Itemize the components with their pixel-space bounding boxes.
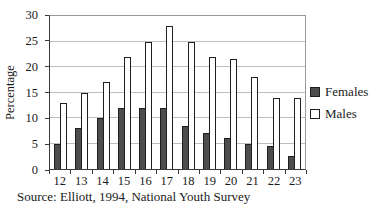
x-tick-mark-8 xyxy=(220,170,221,174)
bar-group-23 xyxy=(284,16,305,169)
y-tick-label-20: 20 xyxy=(26,60,39,73)
x-tick-mark-11 xyxy=(285,170,286,174)
plot-area xyxy=(49,15,306,170)
x-tick-mark-9 xyxy=(242,170,243,174)
source-note: Source: Elliott, 1994, National Youth Su… xyxy=(17,189,250,205)
legend-label-males: Males xyxy=(325,106,357,122)
bar-males-16 xyxy=(145,42,152,170)
bar-group-21 xyxy=(241,16,262,169)
bar-group-22 xyxy=(263,16,284,169)
y-tick-label-5: 5 xyxy=(32,138,38,151)
legend-item-males: Males xyxy=(310,106,368,122)
y-tick-label-0: 0 xyxy=(32,164,38,177)
x-tick-mark-4 xyxy=(135,170,136,174)
x-tick-label-14: 14 xyxy=(92,175,113,189)
bar-males-22 xyxy=(273,98,280,169)
bar-males-23 xyxy=(294,98,301,169)
bar-males-14 xyxy=(103,82,110,169)
y-tick-label-15: 15 xyxy=(26,86,39,99)
bar-group-14 xyxy=(93,16,114,169)
y-tick-label-30: 30 xyxy=(26,9,39,22)
bar-males-12 xyxy=(60,103,67,169)
x-tick-mark-12 xyxy=(306,170,307,174)
bar-males-19 xyxy=(209,57,216,169)
legend: FemalesMales xyxy=(310,84,368,128)
x-tick-label-21: 21 xyxy=(242,175,263,189)
bar-males-13 xyxy=(81,93,88,170)
legend-item-females: Females xyxy=(310,84,368,100)
bar-males-21 xyxy=(251,77,258,169)
legend-label-females: Females xyxy=(325,84,368,100)
x-tick-mark-7 xyxy=(199,170,200,174)
bar-group-18 xyxy=(178,16,199,169)
x-tick-label-17: 17 xyxy=(156,175,177,189)
x-tick-label-23: 23 xyxy=(285,175,306,189)
x-tick-mark-3 xyxy=(113,170,114,174)
bar-chart-figure: Percentage 051015202530 1213141516171819… xyxy=(0,0,381,208)
x-tick-mark-10 xyxy=(263,170,264,174)
bar-group-17 xyxy=(156,16,177,169)
bar-males-20 xyxy=(230,59,237,169)
y-axis: 051015202530 xyxy=(0,15,49,170)
x-tick-mark-1 xyxy=(70,170,71,174)
bar-group-13 xyxy=(71,16,92,169)
bar-group-16 xyxy=(135,16,156,169)
x-tick-label-19: 19 xyxy=(199,175,220,189)
x-tick-label-16: 16 xyxy=(135,175,156,189)
x-tick-label-18: 18 xyxy=(178,175,199,189)
bar-group-15 xyxy=(114,16,135,169)
x-tick-label-15: 15 xyxy=(113,175,134,189)
bar-males-18 xyxy=(188,42,195,170)
x-tick-label-22: 22 xyxy=(263,175,284,189)
x-tick-label-20: 20 xyxy=(220,175,241,189)
bar-group-19 xyxy=(199,16,220,169)
bar-males-15 xyxy=(124,57,131,169)
y-tick-label-25: 25 xyxy=(26,35,39,48)
bar-males-17 xyxy=(166,26,173,169)
x-tick-label-13: 13 xyxy=(70,175,91,189)
bar-group-20 xyxy=(220,16,241,169)
x-tick-mark-5 xyxy=(156,170,157,174)
x-tick-mark-0 xyxy=(49,170,50,174)
y-tick-label-10: 10 xyxy=(26,112,39,125)
legend-swatch-males xyxy=(310,109,320,119)
x-tick-mark-2 xyxy=(92,170,93,174)
bar-group-12 xyxy=(50,16,71,169)
legend-swatch-females xyxy=(310,87,320,97)
x-axis-labels: 121314151617181920212223 xyxy=(49,175,306,189)
bars-container xyxy=(50,16,305,169)
x-tick-label-12: 12 xyxy=(49,175,70,189)
x-tick-mark-6 xyxy=(178,170,179,174)
